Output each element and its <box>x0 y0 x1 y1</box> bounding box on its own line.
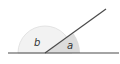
label-angle-b: b <box>34 37 40 48</box>
label-angle-a: a <box>67 40 73 51</box>
angle-diagram: b a <box>0 0 120 64</box>
